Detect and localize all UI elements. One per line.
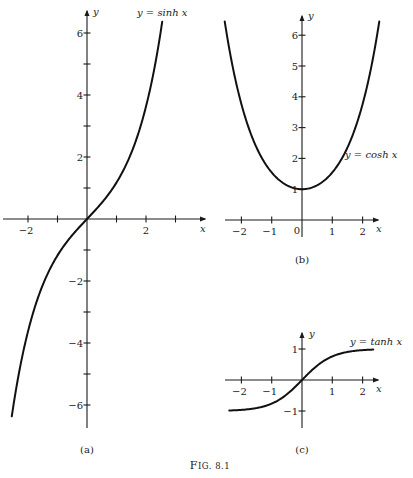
x-axis-label: x [376, 383, 382, 394]
figure-8-1: −22−6−4−2246 y = sinh x x y (a) −2−11201… [0, 0, 413, 478]
y-tick-label: 2 [292, 153, 298, 164]
y-tick-label: 6 [77, 28, 83, 39]
y-tick-label: −6 [68, 400, 83, 411]
curve-title: y = tanh x [349, 336, 402, 347]
y-axis-label: y [308, 328, 315, 339]
y-tick-label: 2 [77, 152, 83, 163]
caption-initial: F [190, 459, 198, 472]
y-axis-label: y [92, 6, 99, 17]
x-tick-label: 1 [329, 386, 335, 397]
ticks: −2−1120123456 [232, 30, 366, 237]
x-tick-label: 2 [359, 226, 365, 237]
origin-label: 0 [294, 225, 300, 236]
panel-label: (c) [295, 444, 309, 455]
y-tick-label: −4 [68, 338, 83, 349]
panel-label: (b) [295, 254, 309, 265]
x-axis-label: x [376, 223, 382, 234]
x-tick-label: 2 [359, 386, 365, 397]
y-axis-label: y [307, 10, 314, 21]
x-tick-label: −2 [232, 386, 247, 397]
y-tick-label: 4 [77, 90, 83, 101]
curve-title: y = cosh x [344, 149, 398, 160]
x-tick-label: −2 [19, 225, 34, 236]
y-tick-label: 5 [292, 61, 298, 72]
y-tick-label: −1 [283, 406, 298, 417]
curve-title: y = sinh x [136, 7, 188, 18]
caption-rest: IG. 8.1 [198, 461, 230, 471]
panel-c-tanh: −2−112−11 y = tanh x x y (c) [225, 328, 402, 455]
x-axis-label: x [200, 223, 206, 234]
panel-b-cosh: −2−1120123456 y = cosh x x y (b) [225, 10, 398, 265]
x-tick-label: −2 [232, 226, 247, 237]
panel-label: (a) [80, 444, 94, 455]
y-tick-label: 4 [292, 91, 298, 102]
y-tick-label: 6 [292, 30, 298, 41]
x-tick-label: 1 [329, 226, 335, 237]
x-tick-label: −1 [262, 386, 277, 397]
y-tick-label: 1 [292, 344, 298, 355]
panel-a-sinh: −22−6−4−2246 y = sinh x x y (a) [3, 6, 206, 455]
y-tick-label: 3 [292, 122, 298, 133]
figure-caption: FIG. 8.1 [190, 459, 230, 472]
y-tick-label: −2 [68, 276, 83, 287]
x-tick-label: −1 [262, 226, 277, 237]
x-tick-label: 2 [143, 225, 149, 236]
